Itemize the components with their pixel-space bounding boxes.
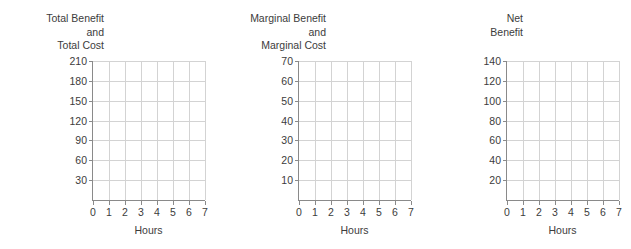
chart-1-x-tick-label: 2 [122,207,128,218]
chart-2-x-tick-mark [315,201,316,205]
chart-3-x-tick-label: 5 [584,207,590,218]
chart-1-gridline-vertical [173,61,174,200]
chart-1-x-tick-mark [173,201,174,205]
chart-1-y-axis-title-line-1: Total Benefit [46,12,104,26]
chart-2-y-axis-title-line-2: and [250,26,326,40]
chart-3-y-tick-mark [503,160,507,161]
chart-2-x-tick-label: 0 [296,207,302,218]
chart-3-x-tick-label: 3 [552,207,558,218]
chart-panel-marginal-benefit-marginal-cost: Marginal Benefit and Marginal Cost 10203… [222,0,418,249]
chart-2-x-tick-label: 6 [392,207,398,218]
chart-1-y-tick-mark [89,61,93,62]
chart-3-gridline-vertical [603,61,604,200]
chart-1-y-tick-mark [89,140,93,141]
chart-1-y-tick-mark [89,180,93,181]
chart-2-x-tick-mark [379,201,380,205]
chart-2-gridline-vertical [347,61,348,200]
chart-1-y-tick-label: 120 [69,115,87,126]
chart-2-x-tick-label: 5 [376,207,382,218]
chart-1-y-tick-label: 210 [69,56,87,67]
chart-1-y-axis-title: Total Benefit and Total Cost [46,12,104,53]
chart-2-gridline-vertical [363,61,364,200]
chart-3-y-tick-mark [503,81,507,82]
chart-1-x-tick-label: 4 [154,207,160,218]
chart-panel-total-benefit-total-cost: Total Benefit and Total Cost 30609012015… [0,0,222,249]
chart-3-gridline-vertical [619,61,620,200]
chart-3-y-tick-mark [503,121,507,122]
chart-1-y-tick-mark [89,81,93,82]
chart-1-x-tick-label: 1 [106,207,112,218]
chart-2-plot-area: 1020304050607001234567 [298,61,411,201]
chart-2-y-tick-label: 10 [281,175,293,186]
chart-1-y-tick-mark [89,121,93,122]
chart-1-y-tick-mark [89,101,93,102]
chart-2-y-axis-title: Marginal Benefit and Marginal Cost [250,12,326,53]
chart-2-y-tick-label: 50 [281,95,293,106]
chart-1-y-axis-title-line-2: and [46,26,104,40]
chart-3-y-tick-mark [503,101,507,102]
chart-2-x-tick-mark [331,201,332,205]
chart-1-gridline-vertical [157,61,158,200]
chart-2-x-tick-mark [347,201,348,205]
chart-3-x-tick-mark [539,201,540,205]
chart-1-x-tick-mark [157,201,158,205]
chart-3-x-tick-label: 4 [568,207,574,218]
chart-3-y-tick-mark [503,140,507,141]
chart-1-x-tick-mark [109,201,110,205]
chart-2-y-tick-mark [295,140,299,141]
chart-2-y-axis-title-line-3: Marginal Cost [250,39,326,53]
chart-3-x-tick-label: 1 [520,207,526,218]
chart-1-y-tick-label: 180 [69,75,87,86]
chart-1-y-tick-mark [89,160,93,161]
chart-3-gridline-vertical [539,61,540,200]
chart-3-y-tick-mark [503,180,507,181]
chart-2-y-tick-label: 20 [281,155,293,166]
chart-3-y-tick-label: 120 [483,75,501,86]
chart-1-plot-wrap: 30609012015018021001234567 Hours [92,61,205,201]
chart-3-gridline-vertical [555,61,556,200]
chart-3-x-tick-mark [619,201,620,205]
chart-3-x-tick-label: 0 [504,207,510,218]
chart-1-x-tick-label: 5 [170,207,176,218]
chart-1-x-tick-label: 7 [202,207,208,218]
chart-3-y-tick-mark [503,61,507,62]
chart-2-gridline-vertical [411,61,412,200]
chart-2-x-tick-label: 4 [360,207,366,218]
chart-3-x-tick-mark [523,201,524,205]
chart-1-x-tick-label: 0 [90,207,96,218]
chart-1-gridline-vertical [141,61,142,200]
chart-1-x-axis-title: Hours [134,225,162,236]
chart-2-x-tick-label: 3 [344,207,350,218]
chart-1-y-tick-label: 60 [75,155,87,166]
chart-3-y-tick-label: 80 [489,115,501,126]
chart-1-x-tick-mark [141,201,142,205]
chart-1-x-tick-mark [189,201,190,205]
chart-1-y-tick-label: 90 [75,135,87,146]
chart-3-x-tick-mark [587,201,588,205]
chart-2-y-tick-label: 40 [281,115,293,126]
chart-2-x-tick-mark [299,201,300,205]
chart-2-y-tick-mark [295,160,299,161]
chart-2-gridline-vertical [395,61,396,200]
chart-2-gridline-vertical [379,61,380,200]
chart-1-x-tick-mark [205,201,206,205]
chart-3-y-axis-title: Net Benefit [490,12,523,39]
chart-2-y-axis-title-line-1: Marginal Benefit [250,12,326,26]
chart-3-x-axis-title: Hours [548,225,576,236]
chart-3-x-tick-mark [603,201,604,205]
chart-1-x-tick-label: 6 [186,207,192,218]
chart-2-y-tick-label: 70 [281,56,293,67]
chart-2-y-tick-mark [295,121,299,122]
chart-1-gridline-vertical [189,61,190,200]
chart-1-gridline-vertical [109,61,110,200]
chart-3-y-axis-title-line-1: Net [490,12,523,26]
chart-1-y-axis-title-line-3: Total Cost [46,39,104,53]
chart-3-gridline-vertical [523,61,524,200]
chart-3-y-tick-label: 100 [483,95,501,106]
chart-2-y-tick-label: 60 [281,75,293,86]
chart-1-plot-area: 30609012015018021001234567 [92,61,205,201]
chart-2-x-tick-mark [411,201,412,205]
chart-1-y-tick-label: 30 [75,175,87,186]
chart-2-y-tick-label: 30 [281,135,293,146]
chart-2-x-tick-label: 1 [312,207,318,218]
